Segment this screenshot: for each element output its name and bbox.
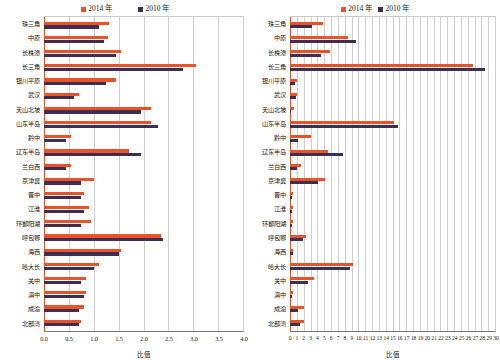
bar-2010[interactable] <box>44 309 79 312</box>
bar-2010[interactable] <box>290 68 485 71</box>
bar-row[interactable] <box>290 202 495 216</box>
bar-row[interactable] <box>44 32 243 46</box>
x-tick-label: 28 <box>480 336 485 341</box>
bar-2010[interactable] <box>44 323 79 326</box>
bar-row[interactable] <box>44 245 243 259</box>
bar-row[interactable] <box>44 188 243 202</box>
bar-row[interactable] <box>290 160 495 174</box>
bar-2010[interactable] <box>290 196 292 199</box>
bar-2010[interactable] <box>290 267 350 270</box>
bar-2010[interactable] <box>44 54 116 57</box>
bar-row[interactable] <box>290 217 495 231</box>
bar-row[interactable] <box>44 302 243 316</box>
bar-2010[interactable] <box>44 139 66 142</box>
bar-2010[interactable] <box>290 25 312 28</box>
bar-row[interactable] <box>290 231 495 245</box>
bar-2010[interactable] <box>290 82 295 85</box>
category-label: 长株潭 <box>250 46 288 60</box>
bar-row[interactable] <box>290 75 495 89</box>
bar-row[interactable] <box>290 288 495 302</box>
bar-row[interactable] <box>44 217 243 231</box>
bar-row[interactable] <box>290 89 495 103</box>
bar-row[interactable] <box>44 89 243 103</box>
bar-row[interactable] <box>44 231 243 245</box>
bar-2010[interactable] <box>44 110 141 113</box>
bar-row[interactable] <box>44 174 243 188</box>
bar-2010[interactable] <box>44 181 81 184</box>
bar-2010[interactable] <box>290 238 303 241</box>
bar-2010[interactable] <box>290 181 318 184</box>
legend-2014[interactable]: 2014 年 <box>81 5 112 13</box>
bar-2010[interactable] <box>290 323 300 326</box>
bar-2010[interactable] <box>44 252 119 255</box>
bar-row[interactable] <box>290 316 495 330</box>
bar-row[interactable] <box>290 245 495 259</box>
bar-row[interactable] <box>290 18 495 32</box>
bar-2010[interactable] <box>290 252 293 255</box>
bar-row[interactable] <box>290 132 495 146</box>
bar-2010[interactable] <box>290 139 298 142</box>
category-label: 滇中 <box>250 288 288 302</box>
bar-row[interactable] <box>290 61 495 75</box>
category-label: 京津冀 <box>250 174 288 188</box>
bar-2010[interactable] <box>44 40 104 43</box>
bar-2010[interactable] <box>290 167 297 170</box>
bar-row[interactable] <box>290 46 495 60</box>
bar-row[interactable] <box>44 288 243 302</box>
bar-2010[interactable] <box>290 224 292 227</box>
bar-2010[interactable] <box>44 210 84 213</box>
bar-row[interactable] <box>44 202 243 216</box>
bar-2010[interactable] <box>44 167 66 170</box>
bar-row[interactable] <box>290 103 495 117</box>
bar-2010[interactable] <box>290 153 343 156</box>
bar-2010[interactable] <box>44 267 94 270</box>
bar-row[interactable] <box>290 146 495 160</box>
bar-2010[interactable] <box>290 309 298 312</box>
right-category-axis: 珠三角中原长株潭长三角银川平原武汉天山北坡山东半岛黔中辽东半岛兰白西京津冀晋中江… <box>250 16 288 332</box>
legend-2010[interactable]: 2010 年 <box>138 5 169 13</box>
bar-row[interactable] <box>290 259 495 273</box>
bar-row[interactable] <box>290 188 495 202</box>
bar-2010[interactable] <box>44 238 163 241</box>
bar-row[interactable] <box>44 117 243 131</box>
bar-row[interactable] <box>44 103 243 117</box>
bar-2010[interactable] <box>44 125 158 128</box>
bar-row[interactable] <box>44 273 243 287</box>
bar-row[interactable] <box>44 160 243 174</box>
bar-row[interactable] <box>290 174 495 188</box>
bar-2010[interactable] <box>44 68 183 71</box>
bar-row[interactable] <box>44 146 243 160</box>
bar-row[interactable] <box>44 132 243 146</box>
bar-2010[interactable] <box>44 96 74 99</box>
bar-2010[interactable] <box>44 25 99 28</box>
bar-row[interactable] <box>290 273 495 287</box>
bar-2010[interactable] <box>290 125 398 128</box>
bar-2010[interactable] <box>290 54 321 57</box>
bar-row[interactable] <box>44 75 243 89</box>
bar-row[interactable] <box>44 18 243 32</box>
bar-row[interactable] <box>44 46 243 60</box>
bar-2010[interactable] <box>290 40 356 43</box>
bar-2010[interactable] <box>290 96 296 99</box>
bar-2010[interactable] <box>44 281 81 284</box>
bar-row[interactable] <box>44 316 243 330</box>
bar-row[interactable] <box>290 302 495 316</box>
bar-2010[interactable] <box>290 281 308 284</box>
bar-2010[interactable] <box>290 295 292 298</box>
bar-2010[interactable] <box>44 153 141 156</box>
bar-2010[interactable] <box>290 110 291 113</box>
legend-2010[interactable]: 2010 年 <box>378 5 409 13</box>
category-label: 辽东半岛 <box>0 145 42 159</box>
bar-2010[interactable] <box>44 82 106 85</box>
bar-2010[interactable] <box>290 210 292 213</box>
category-label: 哈大长 <box>250 260 288 274</box>
bar-row[interactable] <box>44 259 243 273</box>
bar-row[interactable] <box>290 117 495 131</box>
bar-row[interactable] <box>290 32 495 46</box>
bar-2010[interactable] <box>44 196 81 199</box>
bar-2010[interactable] <box>44 224 81 227</box>
x-tick-label: 10 <box>356 336 361 341</box>
legend-2014[interactable]: 2014 年 <box>341 5 372 13</box>
bar-row[interactable] <box>44 61 243 75</box>
bar-2010[interactable] <box>44 295 84 298</box>
